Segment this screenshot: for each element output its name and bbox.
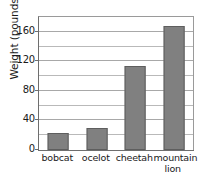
y-axis-tick-label: 40 (9, 114, 35, 124)
x-axis-tick-label-line: mountain (154, 152, 193, 163)
bar-slot (39, 17, 78, 150)
x-axis-tick-label: bobcat (38, 152, 77, 163)
y-axis-tick-label: 160 (9, 26, 35, 36)
clipped-caption (0, 179, 207, 184)
bar[interactable] (86, 128, 107, 150)
bar-chart-figure: Weight (pounds) 04080120160 bobcatocelot… (0, 0, 207, 184)
y-axis-tick-labels: 04080120160 (5, 0, 35, 184)
bar-slot (155, 17, 194, 150)
bar-slot (78, 17, 117, 150)
x-axis-tick-label: cheetah (115, 152, 154, 163)
bar-series (39, 17, 193, 150)
bar[interactable] (163, 26, 184, 150)
y-axis-tick-label: 0 (9, 144, 35, 154)
y-axis-tick-label: 80 (9, 85, 35, 95)
y-axis-tick-label: 120 (9, 55, 35, 65)
x-axis-tick-label-line: cheetah (115, 152, 154, 163)
plot-area (38, 16, 194, 150)
bar-slot (116, 17, 155, 150)
bar[interactable] (125, 66, 146, 150)
x-axis-tick-label: mountainlion (154, 152, 193, 174)
x-axis-tick-label-line: lion (154, 163, 193, 174)
x-axis-line (38, 150, 194, 151)
x-axis-tick-label: ocelot (77, 152, 116, 163)
x-axis-tick-label-line: ocelot (77, 152, 116, 163)
bar[interactable] (48, 133, 69, 150)
x-axis-tick-label-line: bobcat (38, 152, 77, 163)
